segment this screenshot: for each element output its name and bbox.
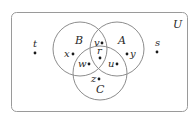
point-label: y [129,48,136,59]
point-dot [99,57,102,60]
point-dot [98,78,101,81]
point-dot [88,63,91,66]
set-b-label: B [74,34,83,47]
point-dot [34,52,37,55]
point-dot [156,51,159,54]
universe-rectangle [12,13,188,112]
point-label: s [155,37,160,48]
set-a-label: A [117,34,126,47]
point-label: w [78,58,87,69]
point-label: z [90,73,97,84]
point-dot [72,53,75,56]
point-label: x [64,48,70,59]
point-dot [101,42,104,45]
venn-diagram: U A B C t s x y v r w u z [0,0,196,116]
point-label: u [108,58,114,69]
point-dot [126,53,129,56]
set-c-label: C [96,83,105,96]
point-dot [116,63,119,66]
universe-label: U [173,18,183,31]
